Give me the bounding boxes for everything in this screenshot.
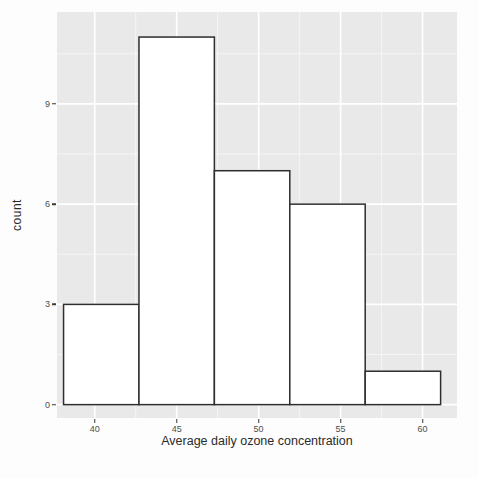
y-tick-mark [52,404,56,406]
x-tick-mark [340,419,342,423]
x-tick-label: 45 [172,425,182,434]
x-tick-label: 55 [336,425,346,434]
y-tick-label: 0 [12,400,50,409]
x-tick-mark [422,419,424,423]
y-tick-mark [52,103,56,105]
x-tick-mark [258,419,260,423]
x-tick-mark [176,419,178,423]
histogram-bar [139,37,214,405]
y-tick-label: 9 [12,99,50,108]
plot-panel [57,12,457,418]
histogram-bar [64,304,139,404]
y-tick-mark [52,304,56,306]
x-axis-title: Average daily ozone concentration [161,434,353,448]
x-tick-label: 50 [254,425,264,434]
plot-area-svg [57,12,457,418]
histogram-bar [365,371,440,404]
histogram-figure: 0369 4045505560 count Average daily ozon… [0,0,478,478]
y-axis-title: count [10,199,24,231]
y-tick-mark [52,203,56,205]
x-tick-label: 60 [418,425,428,434]
x-tick-mark [94,419,96,423]
x-tick-label: 40 [90,425,100,434]
y-tick-label: 3 [12,300,50,309]
histogram-bar [290,204,365,404]
histogram-bar [214,171,289,405]
